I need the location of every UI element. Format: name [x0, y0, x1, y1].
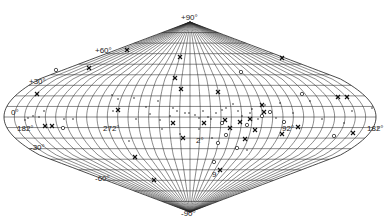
dot-marker-icon — [309, 100, 311, 102]
dot-marker-icon — [63, 118, 65, 120]
dot-marker-icon — [159, 119, 161, 121]
longitude-label: 182° — [367, 124, 384, 133]
circle-marker-icon — [212, 160, 215, 163]
circle-marker-icon — [260, 114, 263, 117]
latitude-label: -30° — [30, 143, 45, 152]
circle-marker-icon — [54, 68, 57, 71]
dot-marker-icon — [111, 94, 113, 96]
dot-marker-icon — [179, 133, 181, 135]
dot-marker-icon — [207, 116, 209, 118]
dot-marker-icon — [184, 112, 186, 114]
dot-marker-icon — [232, 103, 234, 105]
dot-marker-icon — [251, 108, 253, 110]
dot-marker-icon — [112, 110, 114, 112]
dot-marker-icon — [264, 104, 266, 106]
dot-marker-icon — [161, 128, 163, 130]
dot-marker-icon — [194, 114, 196, 116]
dot-marker-icon — [202, 110, 204, 112]
dot-marker-icon — [169, 115, 171, 117]
dot-marker-icon — [343, 122, 345, 124]
dot-marker-icon — [27, 117, 29, 119]
dot-marker-icon — [257, 118, 259, 120]
dot-marker-icon — [188, 112, 190, 114]
sky-map: +90°+60°+30°0°-30°-60°-90°182°272°2°92°1… — [0, 0, 388, 221]
dot-marker-icon — [38, 116, 40, 118]
dot-marker-icon — [172, 107, 174, 109]
dot-marker-icon — [292, 112, 294, 114]
latitude-label: +30° — [29, 77, 46, 86]
dot-marker-icon — [221, 109, 223, 111]
dot-marker-icon — [249, 112, 251, 114]
dot-marker-icon — [215, 112, 217, 114]
dot-marker-icon — [145, 106, 147, 108]
dot-marker-icon — [371, 107, 373, 109]
circle-marker-icon — [332, 134, 335, 137]
circle-marker-icon — [268, 110, 271, 113]
dot-marker-icon — [198, 128, 200, 130]
dot-marker-icon — [133, 97, 135, 99]
annotation-label: 9 — [212, 170, 217, 179]
circle-marker-icon — [220, 121, 223, 124]
dot-marker-icon — [321, 118, 323, 120]
dot-marker-icon — [128, 140, 130, 142]
circle-marker-icon — [235, 146, 238, 149]
dot-marker-icon — [176, 110, 178, 112]
latitude-label: +90° — [181, 13, 198, 22]
dot-marker-icon — [32, 115, 34, 117]
dot-marker-icon — [241, 115, 243, 117]
dot-marker-icon — [351, 110, 353, 112]
longitude-label: 182° — [17, 124, 34, 133]
longitude-label: 2° — [196, 136, 204, 145]
dot-marker-icon — [135, 118, 137, 120]
source-markers — [24, 48, 379, 182]
latitude-label: -90° — [181, 209, 196, 218]
dot-marker-icon — [198, 117, 200, 119]
dot-marker-icon — [279, 102, 281, 104]
dot-marker-icon — [275, 117, 277, 119]
dot-marker-icon — [24, 119, 26, 121]
circle-marker-icon — [216, 141, 219, 144]
latitude-label: +60° — [95, 46, 112, 55]
dot-marker-icon — [225, 107, 227, 109]
circle-marker-icon — [239, 70, 242, 73]
circle-marker-icon — [300, 92, 303, 95]
dot-marker-icon — [43, 110, 45, 112]
dot-marker-icon — [210, 118, 212, 120]
dot-marker-icon — [117, 98, 119, 100]
dot-marker-icon — [157, 100, 159, 102]
circle-marker-icon — [61, 126, 64, 129]
longitude-label: 272° — [103, 124, 120, 133]
dot-marker-icon — [246, 149, 248, 151]
circle-marker-icon — [224, 133, 227, 136]
dot-marker-icon — [237, 110, 239, 112]
dot-marker-icon — [72, 118, 74, 120]
circle-marker-icon — [245, 123, 248, 126]
dot-marker-icon — [211, 137, 213, 139]
latitude-label: 0° — [11, 108, 19, 117]
latitude-label: -60° — [95, 174, 110, 183]
dot-marker-icon — [149, 113, 151, 115]
longitude-label: 92° — [282, 124, 294, 133]
coordinate-grid — [4, 22, 376, 212]
